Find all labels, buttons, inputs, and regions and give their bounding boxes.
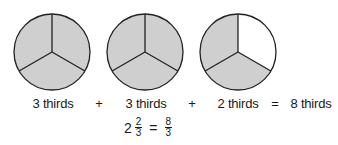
equals-sign: = xyxy=(271,96,278,111)
term-2-label: 3 thirds xyxy=(125,96,166,111)
whole-number: 2 xyxy=(124,120,132,136)
term-1-label: 3 thirds xyxy=(32,96,73,111)
pie-2 xyxy=(107,14,183,90)
pie-1 xyxy=(14,14,90,90)
denominator: 3 xyxy=(136,128,142,138)
term-3-label: 2 thirds xyxy=(217,96,258,111)
fraction-two-thirds: 2 3 xyxy=(135,117,143,138)
fraction-eight-thirds: 8 3 xyxy=(165,117,173,138)
mixed-number-formula: 2 2 3 = 8 3 xyxy=(124,117,172,138)
pie-3 xyxy=(200,14,276,90)
denominator: 3 xyxy=(166,128,172,138)
formula-equals-sign: = xyxy=(149,120,157,136)
plus-sign-2: + xyxy=(188,96,195,111)
plus-sign-1: + xyxy=(95,96,102,111)
pie-diagrams xyxy=(0,0,338,100)
result-label: 8 thirds xyxy=(290,96,331,111)
